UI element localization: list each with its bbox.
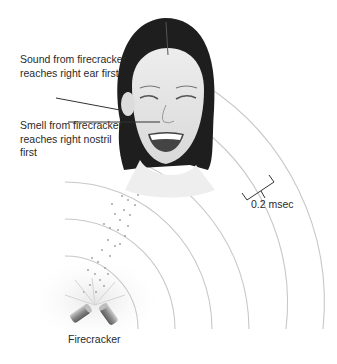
smell-label: Smell from firecracker reaches right nos… (20, 119, 130, 160)
diagram-stage: Sound from firecracker reaches right ear… (0, 0, 337, 364)
burst-glow (25, 255, 165, 345)
interval-bracket (242, 175, 274, 200)
firecracker-label: Firecracker (68, 333, 121, 347)
interval-label: 0.2 msec (251, 198, 294, 212)
sound-label: Sound from firecracker reaches right ear… (20, 53, 130, 80)
ear (121, 92, 135, 116)
face-illustration (117, 18, 215, 198)
ear-leader-line (56, 98, 120, 110)
